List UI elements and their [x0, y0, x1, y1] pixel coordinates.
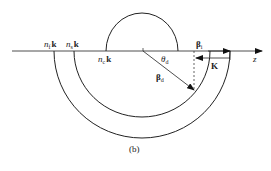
- label-ns-k: nsk: [66, 39, 79, 50]
- label-nf-k: nfk: [44, 39, 57, 50]
- label-K: K: [211, 61, 218, 71]
- cover-index-semicircle: [106, 13, 178, 51]
- beta-d-vector: [143, 51, 194, 90]
- substrate-index-semicircle: [74, 51, 210, 117]
- film-index-semicircle: [54, 51, 230, 138]
- label-z-axis: z: [252, 54, 257, 64]
- figure-caption: (b): [129, 144, 140, 154]
- label-beta-d: βd: [156, 72, 164, 83]
- label-theta-d: θd: [161, 54, 168, 65]
- label-beta-i: βi: [196, 39, 203, 50]
- grating-wavevector-diagram: nfk nsk nck θd βd βi K z (b): [0, 0, 271, 171]
- label-nc-k: nck: [98, 54, 111, 65]
